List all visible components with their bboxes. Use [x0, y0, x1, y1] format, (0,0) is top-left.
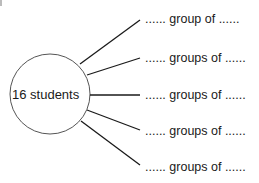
branch-label-4: ...... groups of ......: [145, 124, 246, 138]
branch-line-4: [87, 110, 140, 130]
branch-label-2: ...... groups of ......: [145, 51, 246, 65]
branch-line-1: [80, 20, 140, 64]
branch-line-2: [87, 58, 140, 75]
center-label: 16 students: [12, 87, 79, 102]
branch-label-5: ...... groups of ......: [145, 160, 246, 174]
branch-label-3: ...... groups of ......: [145, 88, 246, 102]
branch-label-1: ...... group of ......: [145, 12, 240, 26]
branch-line-5: [81, 121, 140, 165]
